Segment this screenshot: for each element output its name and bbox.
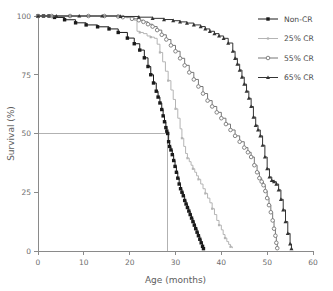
series-65-cr [36,14,293,250]
curve-line [38,16,291,249]
data-point-marker [175,171,178,174]
data-point-marker [168,145,171,148]
data-point-marker [169,148,172,151]
data-point-marker [150,36,152,38]
data-point-marker [249,155,253,159]
data-point-marker [193,223,196,226]
data-point-marker [272,227,276,231]
x-tick-label: 20 [125,258,135,267]
x-tick-label: 10 [79,258,89,267]
data-point-marker [172,159,175,162]
data-point-marker [267,37,269,39]
data-point-marker [258,176,262,180]
data-point-marker [271,219,275,223]
data-point-marker [246,151,250,155]
y-tick-label: 50 [21,129,31,138]
data-point-marker [264,189,268,193]
data-point-marker [255,170,259,174]
x-axis-title: Age (months) [145,275,206,285]
data-point-marker [156,95,159,98]
legend-label-0: Non-CR [284,15,313,24]
series-55-cr [36,14,279,250]
data-point-marker [167,80,169,82]
data-point-marker [218,224,220,226]
data-point-marker [146,22,150,26]
data-point-marker [149,73,152,76]
data-point-marker [117,31,120,34]
x-tick-label: 50 [262,258,272,267]
data-point-marker [197,178,199,180]
data-point-marker [174,49,178,53]
data-point-marker [265,196,269,200]
data-point-marker [159,51,161,53]
data-point-marker [160,33,164,37]
data-point-marker [204,192,206,194]
data-point-marker [210,105,214,109]
data-point-marker [190,216,193,219]
data-point-marker [194,227,197,230]
data-point-marker [274,234,278,238]
data-point-marker [215,111,219,115]
data-point-marker [188,213,191,216]
data-point-marker [126,36,129,39]
data-point-marker [164,126,167,129]
data-point-marker [177,182,180,185]
data-point-marker [266,56,270,60]
data-point-marker [275,241,279,245]
series-non-cr [36,14,205,250]
data-point-marker [174,108,176,110]
x-tick-label: 30 [171,258,181,267]
curve-line [38,16,277,248]
data-point-marker [192,168,194,170]
data-point-marker [187,209,190,212]
data-point-marker [182,194,185,197]
data-point-marker [63,18,66,21]
data-point-marker [142,20,146,24]
series-25-cr [37,15,232,248]
data-point-marker [139,31,141,33]
data-point-marker [229,128,233,132]
data-point-marker [253,163,257,167]
data-point-marker [179,187,182,190]
data-point-marker [152,81,155,84]
data-point-marker [195,231,198,234]
data-point-marker [183,199,186,202]
data-point-marker [267,203,271,207]
data-point-marker [180,191,183,194]
data-point-marker [178,57,182,61]
data-point-marker [206,99,210,103]
data-point-marker [220,116,224,120]
data-point-marker [197,85,201,89]
data-point-marker [181,137,183,139]
data-point-marker [138,48,141,51]
data-point-marker [211,208,213,210]
data-point-marker [289,247,293,251]
survival-curve-chart: 02550751000102030405060Age (months)Survi… [0,0,333,291]
data-point-marker [224,237,226,239]
data-point-marker [133,42,136,45]
y-axis-title: Survival (%) [6,106,16,161]
data-point-marker [224,122,228,126]
data-point-marker [160,108,163,111]
y-tick-label: 0 [26,247,31,256]
data-point-marker [166,132,169,135]
data-point-marker [238,140,242,144]
data-point-marker [96,25,99,28]
legend-label-2: 55% CR [284,54,315,63]
legend-label-3: 65% CR [284,73,315,82]
data-point-marker [84,23,87,26]
data-point-marker [262,183,266,187]
data-point-marker [151,25,155,29]
data-point-marker [187,71,191,75]
data-point-marker [167,140,170,143]
data-point-marker [184,202,187,205]
y-tick-label: 25 [21,188,31,197]
data-point-marker [163,120,166,123]
y-tick-label: 75 [21,71,31,80]
data-point-marker [242,146,246,150]
data-point-marker [143,56,146,59]
data-point-marker [202,247,205,250]
data-point-marker [74,21,77,24]
data-point-marker [201,92,205,96]
data-point-marker [199,241,202,244]
